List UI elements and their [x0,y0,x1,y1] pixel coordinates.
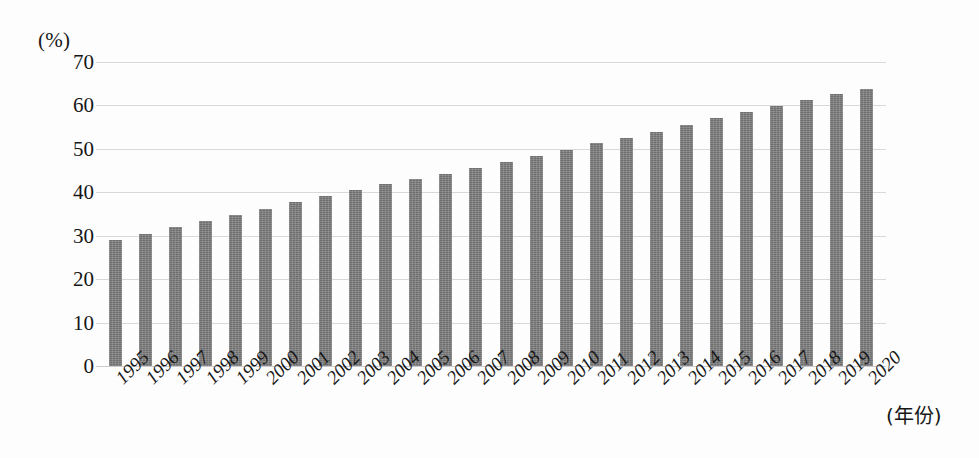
y-axis: 706050403020100 [52,50,94,378]
bar[interactable] [409,179,422,366]
bar-slot [431,62,461,366]
bar-slot [461,62,491,366]
x-slot: 2005 [401,370,431,450]
x-slot: 1999 [220,370,250,450]
x-slot: 2018 [792,370,822,450]
bar[interactable] [109,240,122,366]
x-slot: 2012 [611,370,641,450]
x-slot: 1996 [130,370,160,450]
x-slot: 2008 [491,370,521,450]
bar[interactable] [229,215,242,366]
x-slot: 2004 [371,370,401,450]
bar-slot [581,62,611,366]
bar[interactable] [139,234,152,366]
bar-slot [190,62,220,366]
x-slot: 2014 [671,370,701,450]
bar-slot [280,62,310,366]
bar-slot [611,62,641,366]
y-axis-tick-10: 10 [52,312,94,333]
x-slot: 2020 [852,370,882,450]
bar-slot [641,62,671,366]
bar[interactable] [199,221,212,366]
x-slot: 2011 [581,370,611,450]
bar-slot [220,62,250,366]
bar[interactable] [860,89,873,367]
bar-slot [521,62,551,366]
bar-slot [671,62,701,366]
y-axis-tick-40: 40 [52,182,94,203]
x-slot: 2002 [311,370,341,450]
x-slot: 2006 [431,370,461,450]
x-slot: 2001 [280,370,310,450]
bar-slot [732,62,762,366]
bar-slot [160,62,190,366]
x-slot: 1995 [100,370,130,450]
bar-slot [311,62,341,366]
bar[interactable] [319,196,332,366]
bar-series [96,62,886,366]
y-axis-tick-70: 70 [52,52,94,73]
x-slot: 2007 [461,370,491,450]
bar[interactable] [379,184,392,366]
y-axis-tick-50: 50 [52,138,94,159]
x-slot: 2009 [521,370,551,450]
bar-slot [551,62,581,366]
x-slot: 2003 [341,370,371,450]
bar[interactable] [710,118,723,366]
bar-slot [130,62,160,366]
bar[interactable] [770,106,783,366]
x-slot: 2017 [762,370,792,450]
bar-slot [100,62,130,366]
x-slot: 2015 [702,370,732,450]
bar-slot [852,62,882,366]
bar-slot [491,62,521,366]
y-axis-tick-20: 20 [52,269,94,290]
bar[interactable] [259,209,272,366]
x-slot: 1998 [190,370,220,450]
plot-area [96,62,886,366]
x-slot: 2000 [250,370,280,450]
bar[interactable] [530,156,543,366]
x-slot: 1997 [160,370,190,450]
bar[interactable] [830,94,843,366]
bar[interactable] [469,168,482,366]
x-slot: 2010 [551,370,581,450]
x-slot: 2019 [822,370,852,450]
bar-chart: (%) 706050403020100 19951996199719981999… [0,0,979,458]
bar[interactable] [349,190,362,366]
x-axis-tick-labels: 1995199619971998199920002001200220032004… [96,370,886,450]
bar-slot [762,62,792,366]
bar-slot [702,62,732,366]
x-slot: 2013 [641,370,671,450]
bar[interactable] [800,100,813,366]
bar-slot [401,62,431,366]
y-axis-tick-30: 30 [52,225,94,246]
bar[interactable] [169,227,182,366]
bar[interactable] [560,150,573,366]
bar-slot [822,62,852,366]
y-axis-tick-60: 60 [52,95,94,116]
x-slot: 2016 [732,370,762,450]
y-axis-tick-0: 0 [52,356,94,377]
bar[interactable] [289,202,302,366]
bar[interactable] [650,132,663,367]
bar[interactable] [620,138,633,366]
x-axis-title: (年份) [886,400,942,429]
bar-slot [371,62,401,366]
bar[interactable] [439,174,452,366]
bar-slot [250,62,280,366]
bar[interactable] [680,125,693,366]
bar[interactable] [740,112,753,366]
bar-slot [341,62,371,366]
bar[interactable] [500,162,513,366]
bar[interactable] [590,143,603,366]
bar-slot [792,62,822,366]
